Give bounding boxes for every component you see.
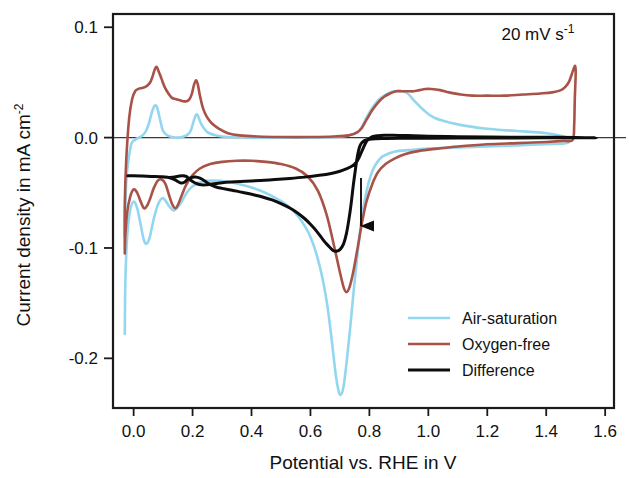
x-tick-label: 1.6: [593, 422, 617, 441]
y-axis-title-group: Current density in mA cm-2: [12, 103, 34, 326]
x-axis-ticks: [134, 408, 606, 416]
cv-chart-figure: 0.00.20.40.60.81.01.21.41.6 0.10.0-0.1-0…: [0, 0, 629, 478]
x-tick-label: 1.0: [417, 422, 441, 441]
scan-rate-text: 20 mV s: [501, 25, 563, 44]
y-axis-ticks: [104, 27, 113, 358]
legend-label: Air-saturation: [462, 310, 557, 327]
scan-rate-superscript: -1: [564, 22, 575, 36]
chart-svg: 0.00.20.40.60.81.01.21.41.6 0.10.0-0.1-0…: [0, 0, 629, 478]
scan-rate-annotation: 20 mV s-1: [501, 22, 574, 44]
legend-label: Oxygen-free: [462, 336, 550, 353]
y-tick-label: -0.1: [69, 239, 98, 258]
y-tick-label: 0.1: [74, 18, 98, 37]
x-axis-tick-labels: 0.00.20.40.60.81.01.21.41.6: [122, 422, 617, 441]
x-tick-label: 1.4: [534, 422, 558, 441]
y-tick-label: 0.0: [74, 129, 98, 148]
y-tick-label: -0.2: [69, 349, 98, 368]
x-tick-label: 0.4: [240, 422, 264, 441]
x-axis-title: Potential vs. RHE in V: [270, 452, 457, 473]
x-tick-label: 0.6: [299, 422, 323, 441]
x-tick-label: 0.2: [181, 422, 205, 441]
x-tick-label: 1.2: [475, 422, 499, 441]
y-axis-title-superscript: -2: [12, 103, 26, 114]
x-tick-label: 0.8: [358, 422, 382, 441]
x-tick-label: 0.0: [122, 422, 146, 441]
legend-label: Difference: [462, 362, 535, 379]
y-axis-title-text: Current density in mA cm: [13, 114, 34, 326]
y-axis-title: Current density in mA cm-2: [12, 103, 34, 326]
y-axis-tick-labels: 0.10.0-0.1-0.2: [69, 18, 98, 368]
